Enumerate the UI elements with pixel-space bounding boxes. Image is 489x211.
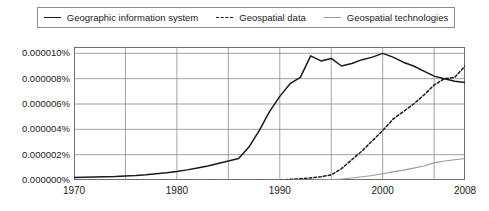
y-axis-tick-label: 0.000000%: [0, 175, 70, 185]
chart-page: Geographic information system Geospatial…: [0, 0, 489, 211]
y-axis-tick-label: 0.000004%: [0, 124, 70, 134]
y-axis-tick-label: 0.000002%: [0, 150, 70, 160]
x-axis-tick-label: 2008: [454, 186, 476, 196]
grid-lines-vertical: [125, 47, 434, 180]
series-line-geographic-information-system: [74, 53, 465, 177]
x-axis-tick-label: 1970: [63, 186, 85, 196]
legend-label-geospatial-technologies: Geospatial technologies: [347, 13, 448, 23]
legend-swatch-solid-dark-icon: [44, 17, 61, 18]
series-line-geospatial-data: [74, 66, 465, 180]
legend-swatch-solid-gray-icon: [324, 17, 341, 18]
data-series-layer: [74, 53, 465, 180]
y-axis-tick-label: 0.000010%: [0, 48, 70, 58]
legend-entry-gis: Geographic information system: [44, 13, 198, 23]
chart-canvas: [74, 47, 465, 180]
legend-entry-geospatial-data: Geospatial data: [216, 13, 306, 23]
series-line-geospatial-technologies: [74, 158, 465, 180]
grid-lines-horizontal: [74, 53, 465, 154]
legend-swatch-dashed-dark-icon: [216, 17, 233, 18]
y-axis-tick-label: 0.000006%: [0, 99, 70, 109]
legend-entry-geospatial-technologies: Geospatial technologies: [324, 13, 448, 23]
x-axis-tick-label: 1980: [166, 186, 188, 196]
chart-legend: Geographic information system Geospatial…: [37, 7, 455, 28]
legend-label-geospatial-data: Geospatial data: [239, 13, 306, 23]
y-axis-tick-label: 0.000008%: [0, 74, 70, 84]
legend-label-gis: Geographic information system: [67, 13, 198, 23]
x-axis-tick-label: 1990: [269, 186, 291, 196]
x-axis-tick-label: 2000: [372, 186, 394, 196]
